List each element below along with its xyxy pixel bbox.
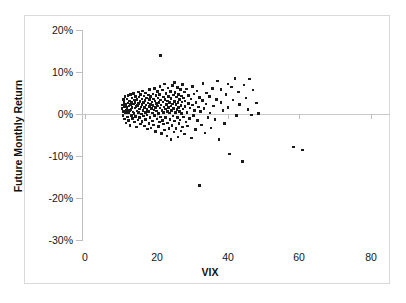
scatter-point xyxy=(172,94,175,97)
scatter-point xyxy=(188,117,191,120)
scatter-point xyxy=(152,93,155,96)
scatter-point xyxy=(234,77,237,80)
scatter-point xyxy=(201,99,204,102)
scatter-point xyxy=(222,109,225,112)
scatter-point xyxy=(241,160,244,163)
scatter-point xyxy=(123,118,126,121)
scatter-point xyxy=(182,108,185,111)
scatter-point xyxy=(227,83,230,86)
scatter-point xyxy=(205,92,208,95)
scatter-point xyxy=(139,93,142,96)
scatter-point xyxy=(150,127,153,130)
scatter-point xyxy=(238,103,241,106)
scatter-point xyxy=(193,93,196,96)
scatter-point xyxy=(181,126,184,129)
scatter-point xyxy=(171,84,174,87)
scatter-point xyxy=(159,85,162,88)
scatter-point xyxy=(212,105,215,108)
scatter-point xyxy=(223,122,226,125)
scatter-point xyxy=(192,114,195,117)
scatter-point xyxy=(292,146,295,149)
scatter-point xyxy=(171,124,174,127)
scatter-point xyxy=(237,91,240,94)
scatter-point xyxy=(167,87,170,90)
scatter-point xyxy=(173,100,176,103)
scatter-point xyxy=(195,101,198,104)
scatter-point xyxy=(250,114,253,117)
scatter-point xyxy=(205,103,208,106)
scatter-point xyxy=(146,114,149,117)
scatter-point xyxy=(190,98,193,101)
scatter-point xyxy=(162,111,165,114)
scatter-point xyxy=(202,82,205,85)
scatter-point xyxy=(174,91,177,94)
scatter-point xyxy=(191,104,194,107)
scatter-point xyxy=(178,122,181,125)
scatter-point xyxy=(166,122,169,125)
scatter-point xyxy=(160,132,163,135)
scatter-point xyxy=(147,110,150,113)
scatter-point xyxy=(187,94,190,97)
scatter-point xyxy=(174,111,177,114)
scatter-point xyxy=(179,119,182,122)
scatter-point xyxy=(183,91,186,94)
scatter-point xyxy=(235,114,238,117)
scatter-point xyxy=(159,116,162,119)
scatter-point xyxy=(216,80,219,83)
scatter-point xyxy=(127,119,130,122)
scatter-point xyxy=(255,102,258,105)
scatter-point xyxy=(151,120,154,123)
scatter-chart-figure: 20% 10% 0% -10% -20% -30% 0 20 40 60 80 … xyxy=(0,0,406,303)
scatter-point xyxy=(215,98,218,101)
plot-area: 20% 10% 0% -10% -20% -30% 0 20 40 60 80 … xyxy=(0,0,406,303)
scatter-point xyxy=(172,107,175,110)
scatter-point xyxy=(152,124,155,127)
scatter-point xyxy=(197,106,200,109)
scatter-point xyxy=(180,112,183,115)
scatter-point xyxy=(166,135,169,138)
scatter-point xyxy=(139,123,142,126)
scatter-point xyxy=(185,88,188,91)
scatter-point xyxy=(189,107,192,110)
scatter-point xyxy=(142,115,145,118)
scatter-point xyxy=(153,114,156,117)
scatter-point xyxy=(183,133,186,136)
scatter-point xyxy=(180,130,183,133)
scatter-point xyxy=(162,101,165,104)
scatter-point xyxy=(158,121,161,124)
scatter-point xyxy=(161,119,164,122)
scatter-point xyxy=(122,114,125,117)
scatter-point xyxy=(208,95,211,98)
scatter-point xyxy=(227,106,230,109)
scatter-point xyxy=(129,124,132,127)
scatter-point xyxy=(144,118,147,121)
scatter-point xyxy=(190,137,193,140)
scatter-point xyxy=(170,138,173,141)
scatter-point xyxy=(169,118,172,121)
scatter-point xyxy=(230,86,233,89)
scatter-point xyxy=(211,87,214,90)
scatter-point xyxy=(184,105,187,108)
scatter-point xyxy=(177,136,180,139)
scatter-point xyxy=(173,120,176,123)
scatter-point xyxy=(141,98,144,101)
scatter-point xyxy=(193,109,196,112)
scatter-point xyxy=(204,132,207,135)
scatter-point xyxy=(169,90,172,93)
scatter-point xyxy=(175,96,178,99)
scatter-point xyxy=(181,101,184,104)
scatter-point xyxy=(187,102,190,105)
scatter-point xyxy=(301,149,304,152)
scatter-point xyxy=(168,127,171,130)
scatter-point xyxy=(162,123,165,126)
scatter-point xyxy=(247,108,250,111)
scatter-point xyxy=(248,78,251,81)
scatter-point xyxy=(157,125,160,128)
scatter-point xyxy=(138,116,141,119)
scatter-point xyxy=(198,184,201,187)
scatter-point xyxy=(126,116,129,119)
scatter-point xyxy=(184,100,187,103)
scatter-point xyxy=(214,118,217,121)
scatter-point xyxy=(181,83,184,86)
scatter-point xyxy=(173,131,176,134)
